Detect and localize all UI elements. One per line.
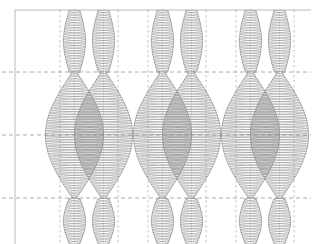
oscillation-column-group-1: [46, 10, 133, 244]
oscillation-column-group-2: [134, 10, 221, 244]
oscillation-column-group-3: [222, 10, 309, 244]
plot-canvas: [0, 0, 320, 244]
plot-figure: [0, 0, 320, 244]
